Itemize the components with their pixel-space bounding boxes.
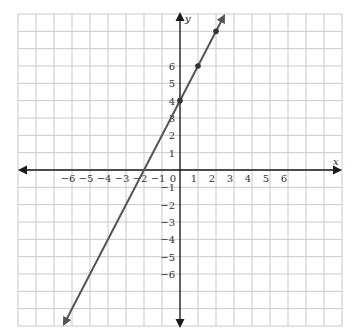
- x-tick-label: 6: [281, 173, 287, 184]
- axes: [18, 12, 342, 328]
- y-tick-label: 1: [169, 148, 175, 159]
- y-tick-label: 2: [169, 130, 175, 141]
- marked-point: [195, 63, 201, 69]
- y-tick-label: −3: [160, 217, 175, 228]
- marked-point: [177, 98, 183, 104]
- y-tick-label: −5: [160, 252, 175, 263]
- y-tick-label: −2: [160, 200, 175, 211]
- x-tick-label: 2: [209, 173, 215, 184]
- x-tick-label: 3: [227, 173, 233, 184]
- y-tick-label: 5: [169, 78, 175, 89]
- x-tick-label: −4: [97, 173, 112, 184]
- x-tick-label: 4: [245, 173, 251, 184]
- x-tick-label: −6: [61, 173, 76, 184]
- marked-point: [213, 29, 219, 35]
- y-tick-label: 6: [169, 61, 175, 72]
- x-tick-label: −5: [79, 173, 94, 184]
- x-tick-label: 5: [263, 173, 269, 184]
- x-axis-label: x: [333, 156, 339, 167]
- y-axis-up-arrow-icon: [176, 12, 185, 21]
- y-tick-label: −4: [160, 234, 175, 245]
- x-tick-label: 1: [191, 173, 197, 184]
- x-tick-label: −3: [115, 173, 130, 184]
- y-tick-label: −6: [160, 269, 175, 280]
- x-axis-left-arrow-icon: [18, 166, 27, 175]
- y-axis-down-arrow-icon: [176, 319, 185, 328]
- y-tick-label: −1: [160, 182, 175, 193]
- y-axis-label: y: [184, 13, 191, 24]
- y-tick-label: 4: [169, 96, 175, 107]
- coordinate-plane: −6−5−4−3−2−10123456654321−1−2−3−4−5−6 x …: [0, 0, 361, 333]
